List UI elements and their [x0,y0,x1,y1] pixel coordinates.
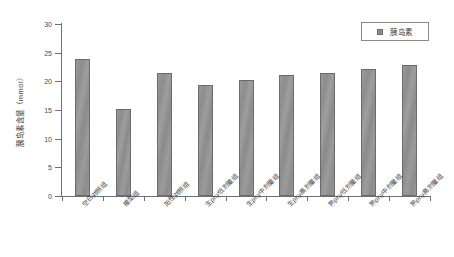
bar-chart: 胰岛素含量（mmol） 051015202530 空白对照组模型组阳性对照组生p… [0,0,454,257]
plot-area [62,24,430,196]
x-axis-tick [103,196,104,201]
y-axis-tick-label: 0 [12,193,52,200]
x-axis-tick [185,196,186,201]
x-axis-tick [430,196,431,201]
chart-legend: 胰岛素 [361,22,429,41]
x-axis-tick [348,196,349,201]
legend-color-swatch [377,29,383,35]
bar [198,85,213,196]
bar [75,59,90,196]
bar [320,73,335,196]
y-axis-tick-label: 25 [12,49,52,56]
y-axis-tick-label: 10 [12,135,52,142]
bar [279,75,294,196]
x-axis-tick [389,196,390,201]
bar [239,80,254,196]
x-axis-tick [226,196,227,201]
y-axis-tick [55,24,62,25]
y-axis-tick [55,167,62,168]
y-axis-tick-label: 5 [12,164,52,171]
y-axis-tick [55,81,62,82]
x-axis-tick [307,196,308,201]
x-axis-tick [144,196,145,201]
bar [157,73,172,196]
legend-label-text: 胰岛素 [390,26,413,37]
bar [361,69,376,196]
y-axis-tick [55,196,62,197]
y-axis-tick-label: 15 [12,107,52,114]
y-axis-tick-label: 20 [12,78,52,85]
y-axis-tick-label: 30 [12,21,52,28]
y-axis-tick [55,139,62,140]
x-axis-tick [266,196,267,201]
bar [116,109,131,196]
x-axis-tick [62,196,63,201]
y-axis-tick [55,110,62,111]
bar [402,65,417,196]
y-axis-tick [55,53,62,54]
